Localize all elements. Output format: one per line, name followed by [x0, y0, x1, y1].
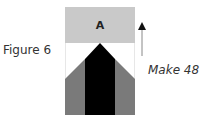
up-arrow-icon — [138, 22, 146, 60]
unit-label: A — [96, 19, 105, 32]
quilt-block-diagram: A — [65, 7, 135, 115]
make-count-label: Make 48 — [148, 63, 199, 77]
figure-label: Figure 6 — [3, 43, 51, 57]
quilt-block-svg: A — [65, 7, 135, 115]
